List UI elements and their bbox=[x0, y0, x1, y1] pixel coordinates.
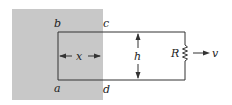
label-c: c bbox=[103, 17, 109, 30]
label-d: d bbox=[103, 83, 110, 96]
label-v: v bbox=[212, 47, 219, 60]
label-x: x bbox=[76, 50, 83, 63]
circuit-loop-diagram: b c a d x h R v bbox=[0, 0, 232, 105]
velocity-arrow bbox=[193, 51, 210, 56]
label-R: R bbox=[170, 47, 179, 60]
label-a: a bbox=[54, 82, 61, 95]
label-b: b bbox=[54, 17, 61, 30]
label-h: h bbox=[134, 50, 141, 63]
resistor-icon bbox=[183, 45, 188, 61]
